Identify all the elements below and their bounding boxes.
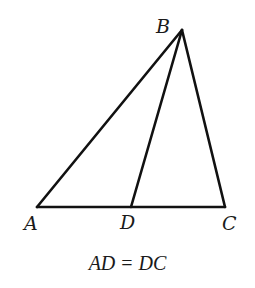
segment-bc <box>182 30 225 207</box>
caption-right-segment: DC <box>139 252 167 274</box>
caption-equals-sign: = <box>121 252 132 274</box>
equality-caption: AD=DC <box>0 253 255 273</box>
vertex-label-c: C <box>222 214 237 233</box>
triangle-diagram <box>0 0 255 288</box>
vertex-label-a: A <box>24 214 38 233</box>
segment-bd <box>131 30 182 207</box>
caption-left-segment: AD <box>89 252 116 274</box>
vertex-label-b: B <box>156 17 170 36</box>
vertex-label-d: D <box>120 213 135 232</box>
segment-ab <box>37 30 182 207</box>
